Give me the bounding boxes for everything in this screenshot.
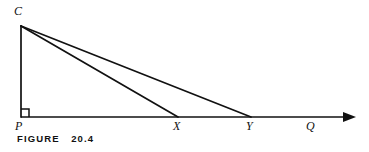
vertex-label-c: C (14, 5, 22, 17)
vertex-label-p: P (15, 120, 22, 132)
segment-cx (21, 26, 178, 117)
ray-arrowhead-icon (343, 112, 356, 122)
figure-caption: FIGURE 20.4 (17, 134, 94, 144)
figure-container: C P X Y Q FIGURE 20.4 (0, 0, 369, 152)
segment-cy (21, 26, 251, 117)
diagram-strokes (21, 26, 356, 122)
vertex-label-x: X (173, 120, 180, 132)
vertex-label-q: Q (306, 120, 315, 132)
right-angle-marker-icon (21, 109, 29, 117)
vertex-label-y: Y (246, 120, 253, 132)
